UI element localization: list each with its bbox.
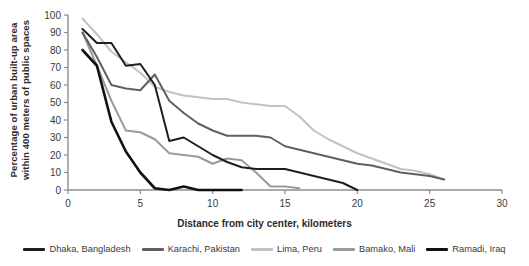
legend-swatch-icon [333,248,355,251]
y-axis-tick-label: 20 [50,150,62,161]
y-axis-tick-label: 70 [50,62,62,73]
legend-swatch-icon [142,248,164,251]
legend-item-label: Karachi, Pakistan [168,244,240,254]
y-axis-tick-label: 60 [50,80,62,91]
y-axis-tick-label: 40 [50,115,62,126]
chart-figure: Percentage of urban built-up area within… [0,0,529,266]
series-line-dhaka-bangladesh [82,29,357,190]
x-axis-label: Distance from city center, kilometers [0,218,529,229]
legend-swatch-icon [251,248,273,251]
x-axis-tick-label: 30 [496,198,508,209]
legend-item-lima-peru[interactable]: Lima, Peru [251,244,322,254]
legend-item-label: Ramadi, Iraq [452,244,505,254]
y-axis-tick-label: 80 [50,45,62,56]
series-line-bamako-mali [82,33,299,189]
y-axis-tick-label: 90 [50,27,62,38]
x-axis-tick-label: 20 [352,198,364,209]
legend-item-karachi-pakistan[interactable]: Karachi, Pakistan [142,244,240,254]
x-axis-tick-label: 15 [279,198,291,209]
chart-legend: Dhaka, BangladeshKarachi, PakistanLima, … [0,238,529,260]
line-chart-plot: 0102030405060708090100051015202530 [0,0,529,224]
series-line-lima-peru [82,19,444,180]
legend-item-bamako-mali[interactable]: Bamako, Mali [333,244,415,254]
x-axis-tick-label: 5 [138,198,144,209]
legend-item-label: Bamako, Mali [359,244,415,254]
legend-item-dhaka-bangladesh[interactable]: Dhaka, Bangladesh [23,244,130,254]
series-line-ramadi-iraq [82,50,241,190]
legend-swatch-icon [23,248,45,251]
y-axis-tick-label: 10 [50,167,62,178]
y-axis-tick-label: 30 [50,132,62,143]
legend-item-label: Dhaka, Bangladesh [49,244,130,254]
x-axis-tick-label: 10 [207,198,219,209]
y-axis-tick-label: 0 [55,185,61,196]
legend-item-label: Lima, Peru [277,244,322,254]
x-axis-tick-label: 25 [424,198,436,209]
legend-swatch-icon [426,248,448,251]
y-axis-tick-label: 100 [44,10,61,21]
legend-item-ramadi-iraq[interactable]: Ramadi, Iraq [426,244,505,254]
x-axis-tick-label: 0 [65,198,71,209]
y-axis-tick-label: 50 [50,97,62,108]
